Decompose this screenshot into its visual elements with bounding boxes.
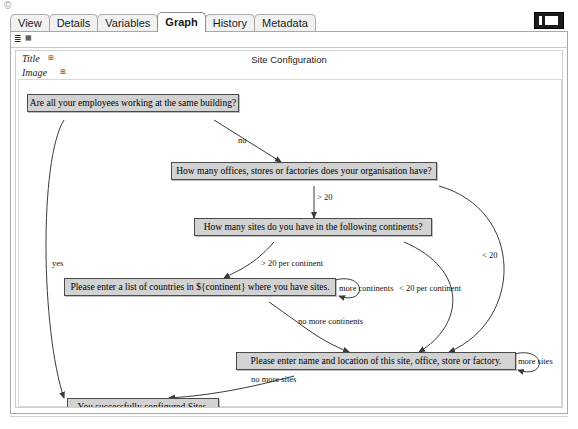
edge-label-no-more-sites: no more sites — [251, 374, 296, 384]
edge-label-yes: yes — [52, 258, 63, 268]
node-employees-same-building[interactable]: Are all your employees working at the sa… — [27, 94, 239, 112]
edge-label-more-sites: more sites — [518, 356, 553, 366]
stray-glyph: © — [4, 0, 16, 12]
bottom-status-strip — [10, 416, 568, 425]
edge-label-no-more-continents: no more continents — [298, 316, 363, 326]
tab-view[interactable]: View — [10, 14, 50, 32]
window-badge-bar-right — [545, 16, 558, 25]
grid-icon[interactable]: ▦ — [25, 33, 32, 43]
node-enter-countries[interactable]: Please enter a list of countries in ${co… — [64, 278, 336, 296]
tab-details[interactable]: Details — [49, 14, 99, 32]
edge-n2-n5 — [439, 186, 504, 352]
graph-window: View Details Variables Graph History Met… — [10, 12, 568, 414]
node-successfully-configured[interactable]: You successfully configured Sites. — [67, 398, 219, 408]
node-how-many-sites-continents[interactable]: How many sites do you have in the follow… — [194, 218, 432, 236]
edge-label-gt-20-per-continent: > 20 per continent — [261, 258, 323, 268]
edge-label-more-continents: more continents — [339, 283, 394, 293]
edge-label-gt-20: > 20 — [317, 192, 332, 202]
flowchart-canvas: Are all your employees working at the sa… — [18, 79, 562, 407]
edge-n3-n5 — [404, 242, 453, 352]
list-icon[interactable]: ≣ — [14, 34, 22, 44]
node-how-many-offices[interactable]: How many offices, stores or factories do… — [171, 162, 437, 180]
image-expand-icon[interactable]: ⊞ — [60, 68, 66, 76]
edge-n4-n5 — [269, 302, 349, 352]
graph-area: Title ⊞ Image ⊞ Site Configuration — [15, 50, 563, 408]
tab-metadata[interactable]: Metadata — [254, 14, 316, 32]
tab-history[interactable]: History — [205, 14, 255, 32]
image-field-label: Image — [22, 67, 47, 78]
window-restore-badge-icon[interactable] — [534, 12, 564, 29]
tab-graph[interactable]: Graph — [157, 12, 205, 32]
mini-toolbar: ≣ ▦ — [11, 32, 567, 48]
tab-bar: View Details Variables Graph History Met… — [10, 12, 568, 32]
edge-label-lt-20-per-continent: < 20 per continent — [399, 283, 461, 293]
edge-label-lt-20: < 20 — [482, 250, 497, 260]
window-badge-bar-left — [539, 16, 542, 25]
graph-title: Site Configuration — [16, 54, 562, 65]
graph-content-panel: ≣ ▦ Title ⊞ Image ⊞ Site Configuration — [10, 31, 568, 414]
edge-label-no: no — [238, 135, 247, 145]
edge-n1-n2 — [214, 120, 281, 162]
tab-variables[interactable]: Variables — [97, 14, 158, 32]
node-enter-name-location[interactable]: Please enter name and location of this s… — [236, 352, 516, 370]
